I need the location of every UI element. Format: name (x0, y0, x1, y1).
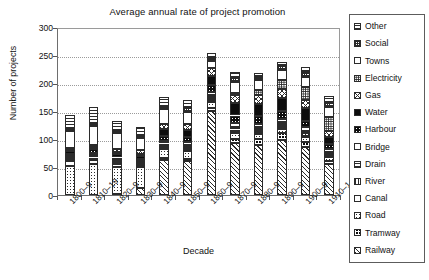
bar-segment-river[interactable] (277, 125, 287, 127)
bar-segment-bridge[interactable] (65, 154, 75, 156)
bar-segment-harbour[interactable] (277, 111, 287, 119)
bar-stack[interactable] (230, 27, 240, 195)
bar-segment-canal[interactable] (65, 161, 75, 166)
bar-segment-drain[interactable] (254, 127, 264, 130)
bar-segment-road[interactable] (277, 129, 287, 133)
bar-segment-electricity[interactable] (301, 87, 311, 100)
bar-segment-bridge[interactable] (159, 141, 169, 144)
bar-segment-gas[interactable] (301, 100, 311, 108)
legend-item-canal[interactable]: Canal (354, 190, 421, 207)
bar-segment-bridge[interactable] (301, 127, 311, 130)
legend-item-gas[interactable]: Gas (354, 87, 421, 104)
bar-stack[interactable] (207, 27, 217, 195)
bar-segment-drain[interactable] (112, 160, 122, 162)
legend-item-water[interactable]: Water (354, 104, 421, 121)
bar-segment-harbour[interactable] (89, 149, 99, 153)
bar-segment-other[interactable] (301, 67, 311, 72)
bar-segment-bridge[interactable] (277, 119, 287, 122)
bar-segment-bridge[interactable] (89, 153, 99, 155)
bar-segment-drain[interactable] (183, 145, 193, 147)
bar-segment-harbour[interactable] (207, 85, 217, 92)
bar-stack[interactable] (324, 27, 334, 195)
bar-segment-bridge[interactable] (230, 123, 240, 126)
bar-segment-other[interactable] (254, 73, 264, 77)
legend-item-bridge[interactable]: Bridge (354, 138, 421, 155)
bar-segment-tramway[interactable] (254, 139, 264, 145)
bar-segment-towns[interactable] (254, 80, 264, 90)
bar-segment-other[interactable] (136, 127, 146, 137)
bar-segment-bridge[interactable] (324, 149, 334, 152)
bar-segment-river[interactable] (254, 130, 264, 132)
bar-stack[interactable] (136, 27, 146, 195)
bar-stack[interactable] (277, 27, 287, 195)
bar-segment-road[interactable] (159, 149, 169, 158)
bar-segment-social[interactable] (301, 72, 311, 77)
bar-segment-water[interactable] (183, 130, 193, 137)
legend-item-tramway[interactable]: Tramway (354, 224, 421, 241)
bar-segment-gas[interactable] (159, 124, 169, 130)
bar-segment-harbour[interactable] (136, 156, 146, 159)
bar-segment-tramway[interactable] (230, 139, 240, 143)
bar-segment-drain[interactable] (324, 152, 334, 154)
bar-segment-water[interactable] (301, 108, 311, 120)
bar-stack[interactable] (112, 27, 122, 195)
bar-stack[interactable] (183, 27, 193, 195)
bar-segment-electricity[interactable] (230, 93, 240, 95)
bar-segment-social[interactable] (230, 78, 240, 82)
bar-segment-water[interactable] (207, 76, 217, 86)
bar-segment-harbour[interactable] (324, 144, 334, 149)
bar-segment-gas[interactable] (183, 124, 193, 130)
bar-segment-towns[interactable] (324, 107, 334, 117)
bar-segment-towns[interactable] (277, 70, 287, 80)
legend-item-railway[interactable]: Railway (354, 241, 421, 258)
bar-segment-water[interactable] (136, 154, 146, 156)
bar-segment-harbour[interactable] (159, 136, 169, 141)
bar-segment-gas[interactable] (207, 68, 217, 75)
bar-segment-gas[interactable] (324, 131, 334, 137)
bar-stack[interactable] (159, 27, 169, 195)
bar-segment-towns[interactable] (207, 61, 217, 69)
bar-segment-water[interactable] (254, 104, 264, 116)
bar-segment-other[interactable] (230, 72, 240, 78)
legend-item-other[interactable]: Other (354, 18, 421, 35)
bar-segment-towns[interactable] (183, 112, 193, 124)
bar-segment-water[interactable] (159, 129, 169, 135)
bar-segment-towns[interactable] (301, 77, 311, 87)
bar-segment-railway[interactable] (324, 164, 334, 195)
bar-segment-harbour[interactable] (65, 151, 75, 154)
bar-segment-water[interactable] (112, 152, 122, 154)
bar-segment-road[interactable] (65, 166, 75, 195)
bar-segment-harbour[interactable] (301, 121, 311, 128)
bar-segment-other[interactable] (65, 115, 75, 130)
bar-segment-river[interactable] (301, 133, 311, 135)
bar-segment-road[interactable] (301, 137, 311, 141)
bar-segment-tramway[interactable] (301, 142, 311, 147)
bar-segment-canal[interactable] (112, 164, 122, 167)
bar-segment-tramway[interactable] (324, 161, 334, 164)
bar-stack[interactable] (254, 27, 264, 195)
bar-segment-towns[interactable] (89, 126, 99, 145)
bar-segment-road[interactable] (254, 134, 264, 139)
bar-segment-towns[interactable] (136, 138, 146, 150)
bar-segment-drain[interactable] (65, 156, 75, 158)
bar-segment-other[interactable] (112, 121, 122, 132)
bar-segment-social[interactable] (183, 108, 193, 111)
bar-segment-road[interactable] (230, 133, 240, 139)
bar-segment-water[interactable] (324, 137, 334, 144)
bar-stack[interactable] (65, 27, 75, 195)
bar-segment-gas[interactable] (254, 95, 264, 104)
legend-item-social[interactable]: Social (354, 35, 421, 52)
bar-segment-drain[interactable] (207, 95, 217, 98)
bar-segment-river[interactable] (89, 158, 99, 160)
bar-segment-drain[interactable] (159, 144, 169, 146)
legend-item-harbour[interactable]: Harbour (354, 121, 421, 138)
bar-segment-drain[interactable] (230, 127, 240, 130)
bar-segment-tramway[interactable] (277, 133, 287, 140)
bar-segment-harbour[interactable] (183, 137, 193, 142)
bar-segment-other[interactable] (89, 107, 99, 124)
bar-segment-harbour[interactable] (230, 116, 240, 124)
bar-segment-gas[interactable] (277, 89, 287, 98)
bar-segment-drain[interactable] (277, 122, 287, 125)
bar-segment-road[interactable] (183, 151, 193, 159)
legend-item-road[interactable]: Road (354, 207, 421, 224)
